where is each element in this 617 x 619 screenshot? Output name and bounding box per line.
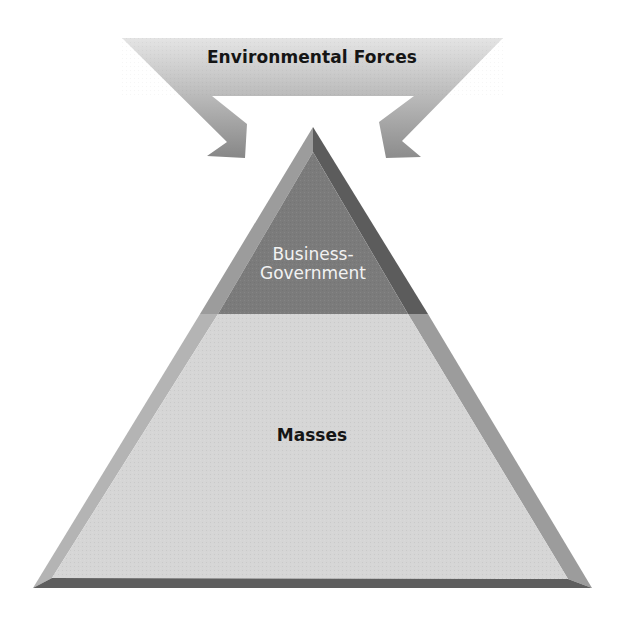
business-government-label: Business- Government	[260, 245, 366, 282]
pyramid	[33, 127, 592, 588]
diagram-svg	[0, 0, 617, 619]
business-government-label-line2: Government	[260, 264, 366, 283]
pyramid-bottom-section	[33, 314, 592, 588]
diagram-canvas: Environmental Forces Business- Governmen…	[0, 0, 617, 619]
environmental-forces-label: Environmental Forces	[207, 48, 417, 67]
business-government-label-line1: Business-	[260, 245, 366, 264]
masses-label: Masses	[277, 426, 347, 445]
